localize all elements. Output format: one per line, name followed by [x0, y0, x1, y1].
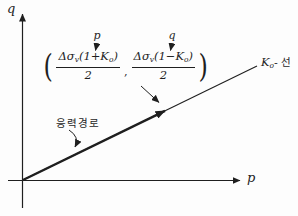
q-fraction-denominator: 2 [132, 68, 195, 82]
one-minus: (1− [154, 49, 175, 63]
p-fraction-numerator: Δσv(1+Ko) [56, 50, 119, 68]
stress-path-label: 응력경로 [56, 115, 100, 130]
k-symbol: K [175, 49, 184, 63]
q-coordinate-fraction: Δσv(1−Ko) 2 [132, 50, 195, 82]
close-inner-paren: ) [189, 49, 194, 63]
close-paren: ) [199, 51, 208, 81]
y-axis-label: q [7, 1, 15, 16]
q-fraction-numerator: Δσv(1−Ko) [132, 50, 195, 68]
p-fraction-denominator: 2 [56, 68, 119, 82]
k-symbol: K [100, 49, 109, 63]
stress-path-leader-arrow [69, 130, 77, 147]
k0-line-label: Ko- 선 [261, 54, 291, 70]
p-coordinate-pointer: p [91, 29, 103, 42]
k0-line-word: - 선 [274, 56, 291, 68]
x-axis-label: p [247, 170, 255, 185]
k0-symbol: K [261, 55, 270, 69]
open-paren: ( [44, 51, 53, 81]
annotation-leader-arrow [141, 86, 159, 103]
coordinate-separator-comma: , [124, 64, 128, 78]
p-coordinate-fraction: Δσv(1+Ko) 2 [56, 50, 119, 82]
delta-sigma: Δσ [58, 49, 74, 63]
k0-stress-path-diagram: q p Ko- 선 응력경로 p q ( Δσv(1+Ko) 2 , Δσv(1… [0, 0, 298, 216]
point-coordinates-formula: ( Δσv(1+Ko) 2 , Δσv(1−Ko) 2 ) [42, 50, 210, 82]
delta-sigma: Δσ [134, 49, 150, 63]
close-inner-paren: ) [113, 49, 118, 63]
one-plus: (1+ [79, 49, 100, 63]
q-coordinate-pointer: q [166, 29, 178, 42]
